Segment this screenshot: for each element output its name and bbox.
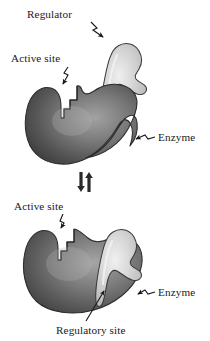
leader-regulator-top bbox=[91, 22, 103, 37]
label-active-site-top: Active site bbox=[11, 52, 60, 64]
leader-enzyme-bottom bbox=[138, 290, 155, 294]
leader-active-site-bottom bbox=[60, 214, 64, 228]
label-active-site-bottom: Active site bbox=[14, 200, 63, 212]
label-regulatory-site: Regulatory site bbox=[56, 324, 126, 336]
label-enzyme-top: Enzyme bbox=[158, 131, 195, 143]
label-enzyme-bottom: Enzyme bbox=[158, 286, 195, 298]
leader-enzyme-top bbox=[136, 135, 155, 139]
leader-active-site-top bbox=[63, 67, 68, 84]
panel-bound: Active site Enzyme Regulatory site bbox=[14, 200, 195, 336]
equilibrium-arrows bbox=[77, 172, 93, 192]
enzyme-regulation-figure: Regulator Active site Enzyme bbox=[0, 0, 210, 341]
enzyme-body-unbound bbox=[25, 84, 137, 164]
panel-unbound: Regulator Active site Enzyme bbox=[11, 8, 195, 164]
label-regulator-top: Regulator bbox=[27, 8, 72, 20]
diagram-canvas: Regulator Active site Enzyme bbox=[0, 0, 210, 341]
